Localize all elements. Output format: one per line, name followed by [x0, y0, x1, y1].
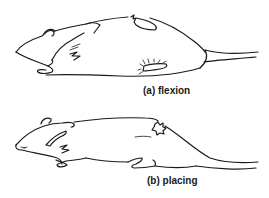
rat-placing-drawing	[0, 0, 269, 198]
rat-reflex-figure: (a) flexion (b) placing	[0, 0, 269, 198]
panel-b-label: (b) placing	[147, 175, 198, 186]
